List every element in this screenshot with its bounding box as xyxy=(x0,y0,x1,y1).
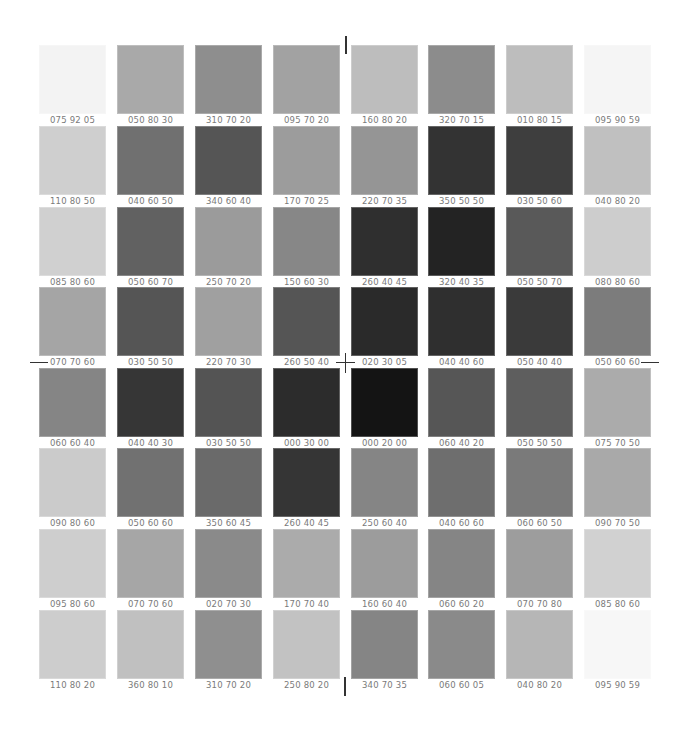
swatch-cell-r2c5: 220 70 35 xyxy=(351,126,418,207)
color-swatch xyxy=(195,368,262,437)
color-swatch xyxy=(428,448,495,517)
color-swatch xyxy=(428,529,495,598)
swatch-cell-r8c2: 360 80 10 xyxy=(117,610,184,691)
color-swatch xyxy=(195,207,262,276)
swatch-cell-r2c2: 040 60 50 xyxy=(117,126,184,207)
swatch-cell-r7c2: 070 70 60 xyxy=(117,529,184,610)
swatch-cell-r1c8: 095 90 59 xyxy=(584,45,651,126)
swatch-cell-r7c4: 170 70 40 xyxy=(273,529,340,610)
swatch-cell-r4c6: 040 40 60 xyxy=(428,287,495,368)
swatch-cell-r7c7: 070 70 80 xyxy=(506,529,573,610)
swatch-cell-r4c4: 260 50 40 xyxy=(273,287,340,368)
color-swatch xyxy=(117,529,184,598)
swatch-cell-r5c5: 000 20 00 xyxy=(351,368,418,449)
swatch-code-label: 040 60 60 xyxy=(423,517,500,529)
color-swatch xyxy=(195,126,262,195)
swatch-cell-r4c7: 050 40 40 xyxy=(506,287,573,368)
swatch-code-label: 260 50 40 xyxy=(268,356,345,368)
swatch-code-label: 075 92 05 xyxy=(34,114,111,126)
swatch-cell-r6c1: 090 80 60 xyxy=(39,448,106,529)
color-swatch xyxy=(351,529,418,598)
swatch-cell-r5c3: 030 50 50 xyxy=(195,368,262,449)
swatch-cell-r2c3: 340 60 40 xyxy=(195,126,262,207)
swatch-code-label: 040 80 20 xyxy=(579,195,656,207)
swatch-cell-r8c4: 250 80 20 xyxy=(273,610,340,691)
swatch-cell-r8c3: 310 70 20 xyxy=(195,610,262,691)
color-swatch xyxy=(39,287,106,356)
swatch-cell-r8c1: 110 80 20 xyxy=(39,610,106,691)
color-swatch xyxy=(506,126,573,195)
swatch-cell-r5c7: 050 50 50 xyxy=(506,368,573,449)
color-swatch xyxy=(39,529,106,598)
color-swatch xyxy=(351,610,418,679)
swatch-cell-r1c3: 310 70 20 xyxy=(195,45,262,126)
swatch-code-label: 090 80 60 xyxy=(34,517,111,529)
color-swatch xyxy=(39,126,106,195)
swatch-cell-r1c1: 075 92 05 xyxy=(39,45,106,126)
color-swatch xyxy=(428,45,495,114)
color-swatch xyxy=(195,45,262,114)
color-swatch xyxy=(506,287,573,356)
color-swatch-chart: 075 92 05 050 80 30 310 70 20 095 70 20 … xyxy=(0,0,689,741)
swatch-code-label: 170 70 25 xyxy=(268,195,345,207)
color-swatch xyxy=(506,368,573,437)
color-swatch xyxy=(195,448,262,517)
color-swatch xyxy=(273,368,340,437)
swatch-code-label: 010 80 15 xyxy=(501,114,578,126)
swatch-cell-r7c5: 160 60 40 xyxy=(351,529,418,610)
swatch-cell-r4c3: 220 70 30 xyxy=(195,287,262,368)
swatch-code-label: 095 70 20 xyxy=(268,114,345,126)
swatch-code-label: 110 80 20 xyxy=(34,679,111,691)
color-swatch xyxy=(39,207,106,276)
color-swatch xyxy=(117,448,184,517)
swatch-cell-r6c5: 250 60 40 xyxy=(351,448,418,529)
swatch-cell-r3c5: 260 40 45 xyxy=(351,207,418,288)
swatch-cell-r5c2: 040 40 30 xyxy=(117,368,184,449)
swatch-code-label: 040 40 60 xyxy=(423,356,500,368)
swatch-code-label: 220 70 30 xyxy=(190,356,267,368)
color-swatch xyxy=(584,368,651,437)
color-swatch xyxy=(351,287,418,356)
swatch-cell-r2c8: 040 80 20 xyxy=(584,126,651,207)
top-registration-tick xyxy=(345,36,347,54)
swatch-cell-r5c1: 060 60 40 xyxy=(39,368,106,449)
color-swatch xyxy=(584,45,651,114)
swatch-cell-r1c4: 095 70 20 xyxy=(273,45,340,126)
color-swatch xyxy=(584,610,651,679)
swatch-cell-r7c6: 060 60 20 xyxy=(428,529,495,610)
swatch-cell-r1c6: 320 70 15 xyxy=(428,45,495,126)
swatch-cell-r2c4: 170 70 25 xyxy=(273,126,340,207)
swatch-code-label: 020 70 30 xyxy=(190,598,267,610)
swatch-cell-r6c8: 090 70 50 xyxy=(584,448,651,529)
swatch-cell-r7c3: 020 70 30 xyxy=(195,529,262,610)
swatch-code-label: 320 70 15 xyxy=(423,114,500,126)
swatch-code-label: 110 80 50 xyxy=(34,195,111,207)
swatch-code-label: 050 60 60 xyxy=(579,356,656,368)
swatch-cell-r5c6: 060 40 20 xyxy=(428,368,495,449)
color-swatch xyxy=(39,448,106,517)
swatch-cell-r6c2: 050 60 60 xyxy=(117,448,184,529)
color-swatch xyxy=(351,448,418,517)
color-swatch xyxy=(273,45,340,114)
swatch-code-label: 060 60 50 xyxy=(501,517,578,529)
swatch-cell-r8c8: 095 90 59 xyxy=(584,610,651,691)
swatch-code-label: 085 80 60 xyxy=(579,598,656,610)
swatch-code-label: 095 90 59 xyxy=(579,679,656,691)
swatch-cell-r4c5: 020 30 05 xyxy=(351,287,418,368)
color-swatch xyxy=(351,45,418,114)
color-swatch xyxy=(428,126,495,195)
color-swatch xyxy=(506,448,573,517)
color-swatch xyxy=(273,448,340,517)
color-swatch xyxy=(273,207,340,276)
swatch-cell-r8c7: 040 80 20 xyxy=(506,610,573,691)
color-swatch xyxy=(117,45,184,114)
swatch-cell-r3c3: 250 70 20 xyxy=(195,207,262,288)
swatch-code-label: 250 80 20 xyxy=(268,679,345,691)
color-swatch xyxy=(39,610,106,679)
color-swatch xyxy=(195,529,262,598)
color-swatch xyxy=(117,207,184,276)
swatch-cell-r1c2: 050 80 30 xyxy=(117,45,184,126)
swatch-code-label: 160 60 40 xyxy=(346,598,423,610)
swatch-code-label: 050 80 30 xyxy=(112,114,189,126)
swatch-cell-r2c7: 030 50 60 xyxy=(506,126,573,207)
